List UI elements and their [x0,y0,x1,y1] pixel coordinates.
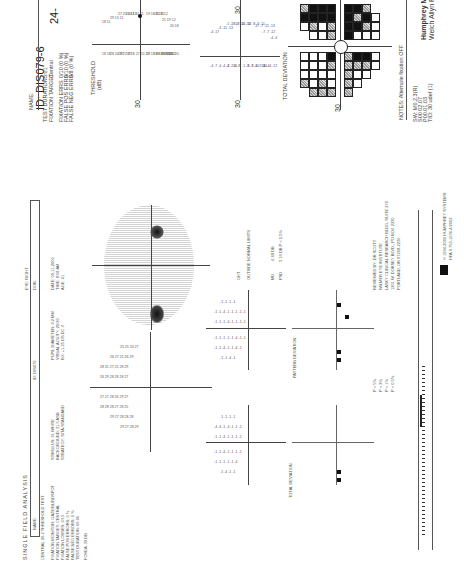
total-deviation-label-left: TOTAL DEVIATION [288,463,293,498]
ght-value: OUTSIDE NORMAL LIMITS [246,230,251,280]
psd-value: 5.74 DB P < 0.5% [278,230,283,262]
fixation-target-value: Central [48,60,54,78]
humphrey-logo-icon [440,265,448,275]
fixation-target-label: FIXATION TARGET [48,74,54,122]
axis-label-30: 30 [134,100,141,108]
axis-label-30: 30 [334,104,341,112]
false-neg-label: FALSE NEG ERRS [68,75,74,122]
program-label-left: CENTRAL 24-2 THRESHOLD TEST [40,495,45,560]
brand-line-1: Humphrey Ma [420,0,427,40]
total-deviation-label: TOTAL DEVIATION [282,52,288,100]
notes: NOTES: Alternate fixation OFF [398,45,404,120]
name-label: NAME: [28,93,34,110]
copyright-1: © 1994-2000 HUMPHREY SYSTEMS [442,193,447,260]
psd-label: PSD [278,272,283,280]
false-neg-value: 0/8 (0 %) [68,56,74,78]
defect-lower [150,305,164,323]
axis-label-30: 30 [234,100,241,108]
tid: TID: 30 udef (1) [427,83,433,122]
brand-line-2: Welch Allyn Fi [428,0,435,40]
name-label-left: NAME: [32,517,37,530]
program-label: 24- [48,8,60,24]
md-label: MD [270,274,275,280]
footer-divider [406,0,407,120]
eye-label: EYE: RIGHT [24,267,29,290]
md-value: -6.68 DB [270,246,275,262]
id-label-left: ID: DIS079 [32,360,37,380]
header-divider [38,0,39,110]
pattern-deviation-label: PATTERN DEVIATION [292,338,297,378]
axis-label-30-top: 30 [234,6,241,14]
ght-label: GHT [236,272,241,280]
dob-label: DOB: [32,280,37,290]
threshold-unit: (dB) [96,80,102,90]
defect-upper [150,225,164,239]
report-title: SINGLE FIELD ANALYSIS [22,474,28,560]
copyright-2: HFA II 750-1036-4/2002 [448,218,453,260]
